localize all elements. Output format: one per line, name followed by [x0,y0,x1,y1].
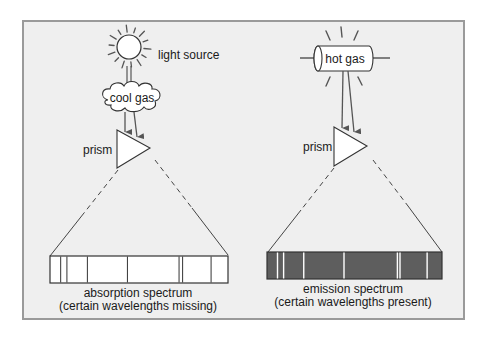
projection-line-dashed [155,160,192,208]
projection-line-dashed [84,170,118,213]
absorption-spectrum-title: absorption spectrum [84,286,193,300]
prism-icon [334,127,367,166]
projection-line-dashed [373,160,408,206]
emission-spectrum-bar [267,252,442,279]
light-source-label: light source [158,48,220,62]
projection-line [408,206,442,252]
hot-gas-label: hot gas [325,52,364,66]
right-panel: hot gas prism emission spectrum (certain… [267,27,442,309]
emission-spectrum-title: emission spectrum [303,282,403,296]
arrow-icon [348,71,354,132]
prism-label: prism [303,140,332,154]
sun-ray [139,31,144,36]
sun-ray [142,55,146,58]
projection-line-dashed [301,168,334,210]
prism-icon [117,130,150,168]
spectra-diagram: light source cool gas prism absorption s… [0,0,485,345]
cool-gas-label: cool gas [110,91,155,105]
left-panel: light source cool gas prism absorption s… [50,25,228,313]
sun-ray [115,58,118,62]
sun-ray [122,61,124,68]
absorption-spectrum-bar [50,256,228,283]
sun-ray [118,30,121,34]
emission-spectrum-caption: (certain wavelengths present) [274,295,431,309]
arrow-icon [342,71,343,128]
projection-line [268,210,301,252]
sun-ray [126,25,127,32]
projection-line [192,208,228,255]
sun-ray [144,48,151,49]
absorption-spectrum-caption: (certain wavelengths missing) [59,299,217,313]
sun-ray [134,28,136,33]
sun-icon [108,25,151,68]
arrow-icon [134,112,137,137]
sun-ray [143,40,148,42]
projection-line [50,213,84,256]
prism-label: prism [83,143,112,157]
sun-ray [110,36,116,40]
sun-ray [108,52,115,54]
sun-ray [137,60,141,66]
